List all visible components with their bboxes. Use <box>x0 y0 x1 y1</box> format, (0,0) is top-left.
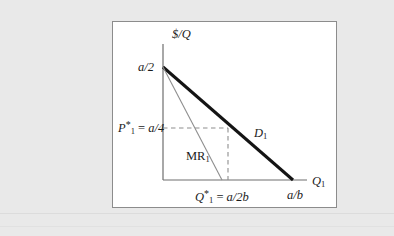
demand-subscript: 1 <box>263 131 267 141</box>
y-axis-label: $/Q <box>172 28 191 41</box>
price-value: a/4 <box>148 121 164 135</box>
quantity-value: a/2b <box>227 190 249 204</box>
page-rule-upper <box>0 213 394 214</box>
price-equals: = <box>135 121 148 135</box>
x-axis-subscript: 1 <box>321 179 325 189</box>
x-axis-symbol: Q <box>312 174 321 188</box>
quantity-equals: = <box>213 190 226 204</box>
optimal-price-label: P*1 = a/4 <box>118 120 164 136</box>
horizontal-intercept-label: a/b <box>287 189 303 202</box>
page-rule-lower <box>0 226 394 227</box>
demand-symbol: D <box>254 126 263 140</box>
mr-subscript: 1 <box>205 154 209 164</box>
x-axis-label: Q1 <box>312 175 325 189</box>
marginal-revenue-label: MR1 <box>186 150 210 164</box>
figure-panel <box>112 21 337 208</box>
price-symbol: P <box>118 121 126 135</box>
mr-symbol: MR <box>186 149 205 163</box>
optimal-quantity-label: Q*1 = a/2b <box>195 189 249 205</box>
figure-root: $/Q a/2 P*1 = a/4 D1 MR1 Q*1 = a/2b a/b … <box>0 0 394 236</box>
vertical-intercept-label: a/2 <box>138 61 154 74</box>
quantity-symbol: Q <box>195 190 204 204</box>
demand-curve-label: D1 <box>254 127 267 141</box>
